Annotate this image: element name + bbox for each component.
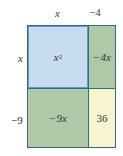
cell-neg9x: −9x (28, 89, 89, 147)
cell-neg9x-label: −9x (49, 112, 67, 124)
cell-36-label: 36 (97, 112, 108, 124)
cell-36: 36 (89, 89, 115, 147)
row-label-x: x (18, 53, 23, 64)
cell-x-squared-exponent: 2 (59, 53, 63, 61)
column-label-x: x (55, 8, 60, 19)
row-label-neg9: −9 (11, 115, 23, 126)
cell-neg4x-label: −4x (93, 51, 111, 63)
cell-x-squared: x2 (28, 26, 89, 89)
cell-neg4x: −4x (89, 26, 115, 89)
column-label-neg4: −4 (89, 7, 101, 18)
area-model-grid: x2 −4x −9x 36 (27, 25, 116, 148)
